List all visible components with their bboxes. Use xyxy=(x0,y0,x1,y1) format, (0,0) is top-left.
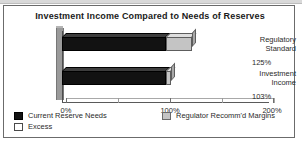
x-axis-tick-100 xyxy=(170,98,171,103)
chart-legend: Current Reserve Needs Excess Regulator R… xyxy=(4,110,296,138)
x-axis-tick-150 xyxy=(222,98,223,103)
chart-screenshot: Investment Income Compared to Needs of R… xyxy=(0,0,302,143)
y-axis-label-investment-income: Investment Income xyxy=(244,69,296,87)
legend-item-regulator-recommended-margins: Regulator Recomm'd Margins xyxy=(162,111,275,120)
legend-item-current-reserve-needs: Current Reserve Needs xyxy=(14,111,107,120)
page-top-strip xyxy=(0,0,302,4)
chart-title: Investment Income Compared to Needs of R… xyxy=(4,11,296,21)
bar-segment-regulator-margins xyxy=(166,37,192,51)
plot-area: Regulatory Standard Investment Income xyxy=(4,26,296,104)
legend-label: Excess xyxy=(28,122,52,131)
data-label-investment-income: 103% xyxy=(252,92,271,101)
legend-swatch-icon xyxy=(162,112,171,120)
bar-segment-current-reserve-needs xyxy=(62,37,166,51)
y-axis-label-line1: Investment xyxy=(259,69,296,78)
legend-label: Current Reserve Needs xyxy=(28,111,107,120)
bar-segment-regulator-margins-side-face xyxy=(171,63,175,81)
x-axis-tick-200 xyxy=(273,98,274,103)
legend-swatch-icon xyxy=(14,112,23,120)
y-axis-label-line2: Standard xyxy=(266,44,296,53)
legend-item-excess: Excess xyxy=(14,122,52,131)
bar-segment-current-reserve-needs-top-face xyxy=(62,67,170,71)
y-axis-label-line1: Regulatory xyxy=(260,35,296,44)
bar-segment-current-reserve-needs xyxy=(62,71,166,85)
data-label-regulatory-standard: 125% xyxy=(252,58,271,67)
chart-frame: Investment Income Compared to Needs of R… xyxy=(3,5,295,138)
x-axis-line xyxy=(62,102,269,103)
bar-segment-regulator-margins-side-face xyxy=(192,29,196,47)
x-axis-tick-0 xyxy=(66,98,67,103)
bar-segment-current-reserve-needs-top-face xyxy=(62,33,170,37)
y-axis-label-line2: Income xyxy=(271,78,296,87)
y-axis-label-regulatory-standard: Regulatory Standard xyxy=(244,35,296,53)
x-axis-tick-50 xyxy=(118,98,119,103)
legend-swatch-icon xyxy=(14,123,23,131)
legend-label: Regulator Recomm'd Margins xyxy=(176,111,275,120)
